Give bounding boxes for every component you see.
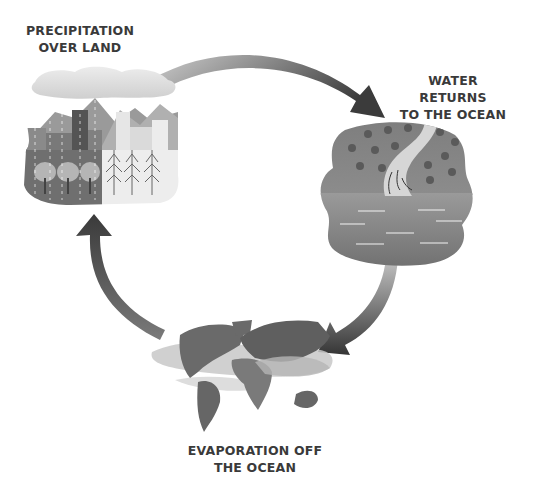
river-illustration: [310, 115, 480, 273]
water-cycle-illustration: [0, 0, 534, 493]
precipitation-illustration: [20, 67, 182, 210]
world-map-illustration: [152, 320, 333, 432]
arrow-evaporation-to-precipitation: [76, 214, 165, 340]
arrow-precipitation-to-return: [150, 55, 385, 118]
rain-cloud-icon: [32, 67, 176, 99]
arrow-return-to-evaporation: [318, 258, 398, 355]
